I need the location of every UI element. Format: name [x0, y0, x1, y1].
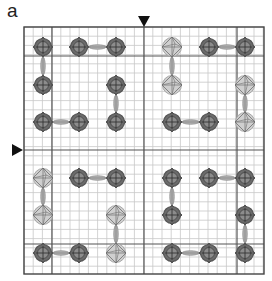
dark-node-icon [33, 37, 53, 57]
light-node-icon [106, 243, 126, 263]
dark-node-icon [106, 168, 126, 188]
dark-node-icon [33, 75, 53, 95]
dark-node-icon [235, 205, 255, 225]
lattice-diagram [0, 0, 272, 281]
dark-node-icon [162, 112, 182, 132]
dark-node-icon [235, 37, 255, 57]
dark-node-icon [199, 37, 219, 57]
light-node-icon [235, 112, 255, 132]
dark-node-icon [199, 243, 219, 263]
dark-node-icon [199, 168, 219, 188]
arrow-down-icon [138, 16, 150, 27]
light-node-icon [162, 75, 182, 95]
light-node-icon [106, 205, 126, 225]
dark-node-icon [235, 243, 255, 263]
dark-node-icon [33, 243, 53, 263]
dark-node-icon [69, 112, 89, 132]
dark-node-icon [106, 75, 126, 95]
dark-node-icon [69, 168, 89, 188]
dark-node-icon [69, 243, 89, 263]
light-node-icon [162, 37, 182, 57]
dark-node-icon [33, 112, 53, 132]
dark-node-icon [162, 168, 182, 188]
light-node-icon [33, 168, 53, 188]
light-node-icon [235, 75, 255, 95]
dark-node-icon [235, 168, 255, 188]
arrow-right-icon [12, 144, 23, 156]
dark-node-icon [162, 205, 182, 225]
dark-node-icon [106, 112, 126, 132]
dark-node-icon [69, 37, 89, 57]
dark-node-icon [106, 37, 126, 57]
dark-node-icon [162, 243, 182, 263]
light-node-icon [33, 205, 53, 225]
dark-node-icon [199, 112, 219, 132]
